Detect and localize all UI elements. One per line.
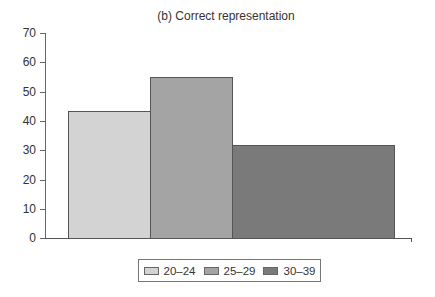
x-axis-line	[45, 238, 412, 239]
legend-label: 30–39	[283, 265, 315, 277]
y-tick-label: 50	[10, 86, 36, 98]
y-tick-label: 20	[10, 174, 36, 186]
bar-20-24	[68, 111, 151, 238]
y-tick-label: 0	[10, 232, 36, 244]
y-tick-label: 70	[10, 27, 36, 39]
y-tick-label: 40	[10, 115, 36, 127]
x-axis-end-tick	[411, 238, 412, 242]
chart-title: (b) Correct representation	[0, 9, 435, 23]
bar-30-39	[232, 145, 395, 238]
y-tick	[40, 33, 45, 34]
legend-label: 20–24	[164, 265, 196, 277]
y-tick	[40, 62, 45, 63]
bar-25-29	[150, 77, 233, 238]
legend-item-30-39: 30–39	[263, 265, 315, 277]
y-tick	[40, 150, 45, 151]
legend-label: 25–29	[224, 265, 256, 277]
y-tick	[40, 180, 45, 181]
y-tick-label: 10	[10, 203, 36, 215]
y-tick	[40, 209, 45, 210]
y-tick-label: 60	[10, 56, 36, 68]
legend-swatch	[263, 267, 278, 275]
legend-item-20-24: 20–24	[144, 265, 196, 277]
y-axis-line	[45, 33, 46, 239]
y-tick-label: 30	[10, 144, 36, 156]
legend: 20–24 25–29 30–39	[138, 259, 321, 282]
y-tick	[40, 92, 45, 93]
legend-swatch	[144, 267, 159, 275]
legend-item-25-29: 25–29	[204, 265, 256, 277]
y-tick	[40, 121, 45, 122]
legend-swatch	[204, 267, 219, 275]
